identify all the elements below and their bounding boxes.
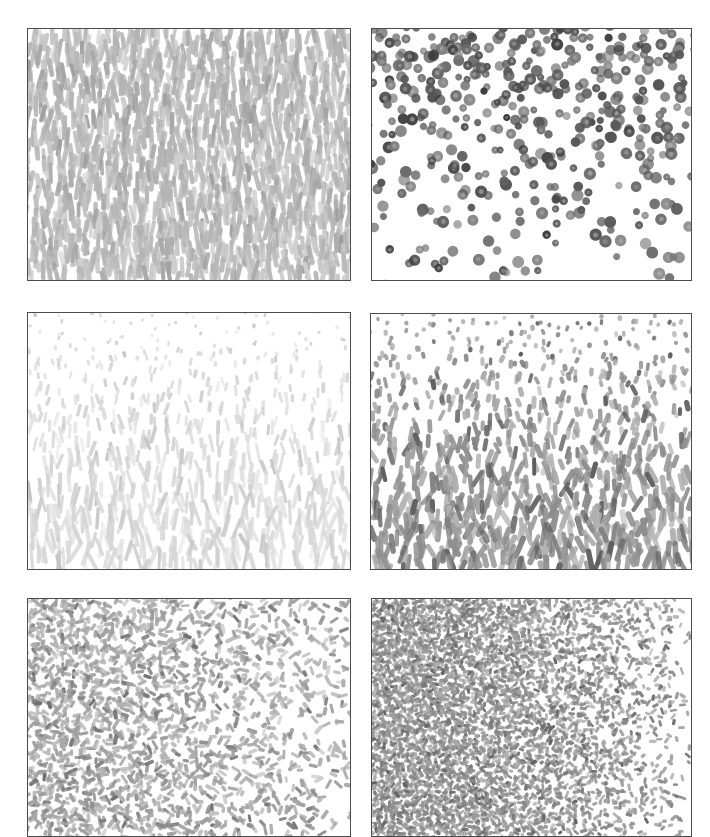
texture-canvas-d	[371, 314, 691, 569]
texture-panel-b	[371, 28, 692, 281]
figure-sheet	[0, 0, 710, 837]
texture-canvas-b	[372, 29, 691, 280]
texture-panel-d	[370, 313, 692, 570]
texture-canvas-e	[28, 599, 350, 836]
texture-canvas-a	[28, 29, 350, 280]
texture-panel-c	[27, 312, 351, 570]
texture-panel-f	[371, 598, 692, 837]
texture-panel-e	[27, 598, 351, 837]
texture-panel-a	[27, 28, 351, 281]
texture-canvas-c	[28, 313, 350, 569]
texture-canvas-f	[372, 599, 691, 836]
